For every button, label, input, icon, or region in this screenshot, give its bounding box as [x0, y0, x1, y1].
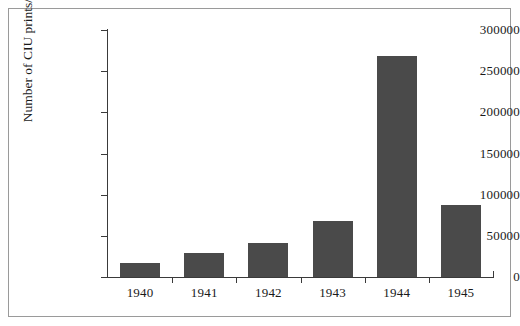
- x-tick-label: 1945: [429, 286, 493, 300]
- x-tick-label: 1941: [172, 286, 236, 300]
- plot-area: [108, 30, 493, 277]
- y-tick-mark: [101, 112, 108, 113]
- y-axis-title: Number of CIU prints/year: [21, 0, 35, 159]
- y-tick-mark: [101, 71, 108, 72]
- x-tick-mark: [236, 277, 237, 283]
- y-tick-mark: [101, 236, 108, 237]
- x-tick-mark: [172, 277, 173, 283]
- y-tick-mark: [101, 195, 108, 196]
- y-tick-mark: [101, 154, 108, 155]
- y-tick-mark: [101, 30, 108, 31]
- bar: [120, 263, 160, 277]
- x-tick-label: 1944: [365, 286, 429, 300]
- bar: [313, 221, 353, 277]
- bar: [248, 243, 288, 277]
- bar: [184, 253, 224, 277]
- x-tick-label: 1942: [236, 286, 300, 300]
- x-tick-mark: [301, 277, 302, 283]
- x-tick-label: 1940: [108, 286, 172, 300]
- bar: [377, 56, 417, 277]
- x-tick-mark: [365, 277, 366, 283]
- bar: [441, 205, 481, 277]
- y-tick-mark: [101, 277, 108, 278]
- bar-chart-figure: Number of CIU prints/year 05000010000015…: [0, 0, 520, 326]
- x-tick-mark: [429, 277, 430, 283]
- x-tick-label: 1943: [301, 286, 365, 300]
